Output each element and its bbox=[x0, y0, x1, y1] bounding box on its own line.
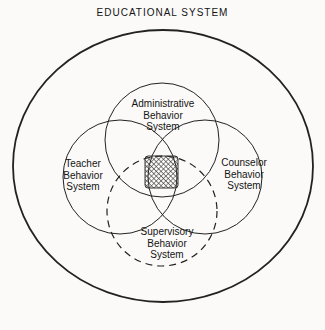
supervisory-label-line3: System bbox=[141, 249, 194, 261]
counselor-label-line1: Counselor bbox=[221, 157, 267, 169]
administrative-label: Administrative Behavior System bbox=[132, 98, 195, 133]
supervisory-label-line2: Behavior bbox=[141, 238, 194, 250]
teacher-label-line1: Teacher bbox=[63, 158, 102, 170]
counselor-label-line2: Behavior bbox=[221, 169, 267, 181]
central-intersection-hatch-region bbox=[145, 156, 178, 188]
venn-diagram-canvas: EDUCATIONAL SYSTEM Administrative Behavi… bbox=[0, 0, 325, 330]
venn-diagram bbox=[0, 0, 325, 330]
counselor-label-line3: System bbox=[221, 180, 267, 192]
administrative-label-line2: Behavior bbox=[132, 110, 195, 122]
diagram-title: EDUCATIONAL SYSTEM bbox=[0, 7, 325, 18]
counselor-label: Counselor Behavior System bbox=[221, 157, 267, 192]
teacher-label-line2: Behavior bbox=[63, 170, 102, 182]
teacher-label-line3: System bbox=[63, 181, 102, 193]
administrative-label-line3: System bbox=[132, 121, 195, 133]
teacher-label: Teacher Behavior System bbox=[63, 158, 102, 193]
supervisory-label: Supervisory Behavior System bbox=[141, 226, 194, 261]
administrative-label-line1: Administrative bbox=[132, 98, 195, 110]
supervisory-label-line1: Supervisory bbox=[141, 226, 194, 238]
